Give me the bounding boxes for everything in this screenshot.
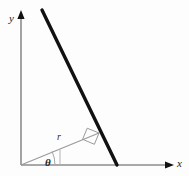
x-axis-label: x: [177, 158, 182, 169]
theta-label: θ: [45, 157, 51, 168]
thick-slanted-line: [42, 10, 117, 165]
x-axis-arrowhead: [165, 162, 174, 169]
figure-container: y x r θ: [0, 0, 189, 176]
y-axis-label: y: [9, 13, 14, 24]
y-axis-arrowhead: [17, 10, 24, 19]
radius-label: r: [57, 132, 61, 142]
diagram-canvas: [0, 0, 189, 176]
theta-arc: [52, 151, 55, 165]
